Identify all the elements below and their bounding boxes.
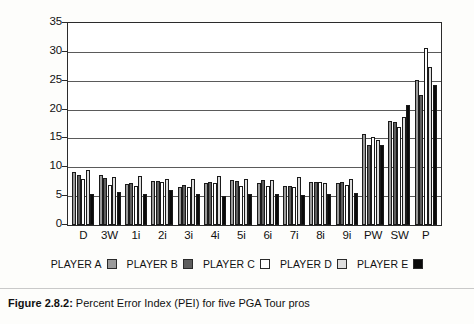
y-tick-mark-10 (62, 166, 67, 167)
x-tick-label-7i: 7i (281, 229, 307, 242)
y-tick-mark-0 (62, 224, 67, 225)
bar-3w-player-e (117, 192, 121, 225)
bar-1i-player-a (125, 184, 129, 225)
y-tick-label-30: 30 (36, 45, 62, 57)
bar-7i-player-d (297, 177, 301, 225)
bar-6i-player-e (275, 194, 279, 225)
bar-7i-player-e (301, 195, 305, 225)
bar-group-3i (175, 23, 201, 225)
y-tick-mark-20 (62, 109, 67, 110)
bar-p-player-d (428, 67, 432, 225)
y-tick-label-20: 20 (36, 103, 62, 115)
y-axis: 05101520253035 (32, 22, 62, 226)
bar-3i-player-d (191, 179, 195, 225)
bar-2i-player-c (160, 182, 164, 225)
bar-group-3w (96, 23, 122, 225)
bar-3w-player-b (103, 178, 107, 225)
bar-1i-player-d (138, 176, 142, 225)
bar-6i-player-a (257, 183, 261, 225)
bar-6i-player-d (270, 180, 274, 225)
y-tick-mark-35 (62, 22, 67, 23)
bar-pw-player-a (362, 134, 366, 225)
bar-p-player-b (419, 95, 423, 225)
bar-group-9i (334, 23, 360, 225)
bar-5i-player-d (244, 179, 248, 225)
bar-d-player-d (86, 170, 90, 225)
bar-8i-player-d (323, 183, 327, 225)
bar-group-sw (386, 23, 412, 225)
bar-5i-player-b (235, 181, 239, 225)
bar-5i-player-c (239, 186, 243, 225)
figure-page: 05101520253035 D3W1i2i3i4i5i6i7i8i9iPWSW… (0, 0, 474, 324)
x-tick-label-1i: 1i (123, 229, 149, 242)
legend-swatch-b (183, 259, 193, 269)
x-tick-label-4i: 4i (202, 229, 228, 242)
bar-pw-player-e (380, 145, 384, 225)
bar-4i-player-c (213, 183, 217, 225)
bar-4i-player-a (204, 183, 208, 225)
caption-text: Percent Error Index (PEI) for five PGA T… (73, 297, 310, 309)
bar-8i-player-b (314, 182, 318, 225)
x-tick-label-d: D (70, 229, 96, 242)
legend-swatch-c (260, 259, 270, 269)
legend-swatch-a (107, 259, 117, 269)
bar-sw-player-e (406, 105, 410, 225)
bar-4i-player-d (217, 176, 221, 225)
bar-group-1i (123, 23, 149, 225)
bar-sw-player-c (397, 127, 401, 225)
x-tick-label-8i: 8i (307, 229, 333, 242)
bar-pw-player-b (367, 145, 371, 225)
bar-8i-player-a (309, 182, 313, 225)
bar-6i-player-b (261, 180, 265, 225)
bar-d-player-b (77, 175, 81, 225)
bar-pw-player-d (376, 140, 380, 225)
y-tick-mark-15 (62, 137, 67, 138)
bar-9i-player-b (340, 182, 344, 225)
legend-item-d: PLAYER D (280, 258, 347, 270)
bar-1i-player-b (129, 183, 133, 225)
y-tick-label-5: 5 (36, 189, 62, 201)
bar-8i-player-e (327, 194, 331, 225)
figure-caption: Figure 2.8.2: Percent Error Index (PEI) … (8, 296, 468, 310)
chart-legend: PLAYER APLAYER BPLAYER CPLAYER DPLAYER E (0, 258, 474, 270)
bar-group-5i (228, 23, 254, 225)
bar-1i-player-c (134, 186, 138, 225)
bar-7i-player-c (292, 187, 296, 225)
bar-2i-player-a (151, 181, 155, 225)
bar-3w-player-c (108, 185, 112, 225)
bar-group-4i (202, 23, 228, 225)
bar-d-player-e (90, 194, 94, 225)
bar-p-player-c (424, 48, 428, 225)
bar-7i-player-b (288, 186, 292, 225)
y-tick-mark-25 (62, 80, 67, 81)
bar-chart: 05101520253035 D3W1i2i3i4i5i6i7i8i9iPWSW… (0, 0, 474, 250)
bar-groups (68, 23, 441, 225)
x-tick-label-3w: 3W (96, 229, 122, 242)
legend-item-b: PLAYER B (127, 258, 193, 270)
x-tick-label-5i: 5i (228, 229, 254, 242)
legend-label-a: PLAYER A (51, 258, 102, 270)
bar-2i-player-b (156, 181, 160, 225)
bar-2i-player-e (169, 190, 173, 225)
x-tick-label-sw: SW (386, 229, 412, 242)
figure-number: Figure 2.8.2: (8, 297, 73, 309)
bar-1i-player-e (143, 194, 147, 225)
bar-group-8i (307, 23, 333, 225)
legend-label-e: PLAYER E (357, 258, 408, 270)
y-tick-label-10: 10 (36, 160, 62, 172)
bar-d-player-a (72, 172, 76, 225)
legend-item-e: PLAYER E (357, 258, 423, 270)
bar-group-pw (360, 23, 386, 225)
bar-6i-player-c (266, 186, 270, 225)
bar-group-7i (281, 23, 307, 225)
bar-3i-player-c (187, 187, 191, 225)
bar-sw-player-d (402, 117, 406, 225)
bar-d-player-c (81, 179, 85, 225)
x-tick-label-p: P (413, 229, 439, 242)
bar-3w-player-d (112, 177, 116, 225)
y-tick-label-25: 25 (36, 74, 62, 86)
bar-3w-player-a (99, 175, 103, 225)
legend-swatch-d (337, 259, 347, 269)
x-tick-label-6i: 6i (255, 229, 281, 242)
legend-label-d: PLAYER D (280, 258, 332, 270)
